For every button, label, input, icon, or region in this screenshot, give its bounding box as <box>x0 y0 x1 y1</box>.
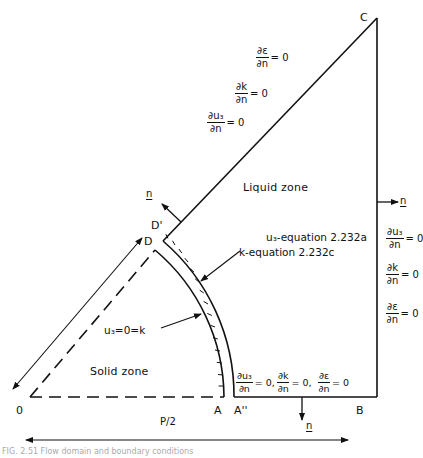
point-label-d: D <box>144 236 152 247</box>
u3-equation-label: u₃-equation 2.232a <box>266 232 367 243</box>
point-label-d-prime: D' <box>151 220 163 231</box>
liquid-zone-label: Liquid zone <box>243 182 308 193</box>
point-label-b: B <box>356 405 364 416</box>
bc-diagonal-k: ∂k∂n = 0 <box>235 82 268 105</box>
leader-arrows <box>161 251 240 328</box>
bc-diagonal-epsilon: ∂ε∂n = 0 <box>256 46 289 69</box>
bc-diagonal-u3: ∂u₃∂n = 0 <box>207 111 244 134</box>
solid-arc-ad <box>155 250 224 397</box>
leader-solid-cond-to-inner-wall <box>161 314 201 328</box>
normal-label-bottom: n <box>306 421 312 431</box>
normal-arrow-diagonal <box>162 204 181 222</box>
bc-right-epsilon: ∂ε∂n = 0 <box>386 302 419 325</box>
liquid-boundary <box>163 18 377 397</box>
leader-equation-to-outer-wall <box>201 251 240 281</box>
point-label-c: C <box>360 12 368 23</box>
solid-zone-label: Solid zone <box>90 366 149 377</box>
half-pitch-label: P/2 <box>160 417 176 427</box>
solid-condition-label: u₃=0=k <box>104 325 145 336</box>
normal-label-right: n <box>400 196 406 206</box>
point-label-o: 0 <box>16 405 23 416</box>
figure-caption: FIG. 2.51 Flow domain and boundary condi… <box>2 447 193 456</box>
bc-right-u3: ∂u₃∂n = 0 <box>386 227 423 250</box>
bc-bottom-u3: ∂u₃∂n = 0, <box>236 371 275 393</box>
normal-label-diagonal: n <box>146 189 152 199</box>
point-label-a: A <box>214 405 222 416</box>
point-label-a-double-prime: A'' <box>234 405 248 416</box>
bc-right-k: ∂k∂n = 0 <box>386 263 419 286</box>
bc-bottom-epsilon: ∂ε∂n = 0 <box>318 371 349 393</box>
k-equation-label: k-equation 2.232c <box>239 247 334 258</box>
dimension-arrows <box>13 238 348 440</box>
bc-bottom-k: ∂k∂n = 0, <box>277 371 311 393</box>
